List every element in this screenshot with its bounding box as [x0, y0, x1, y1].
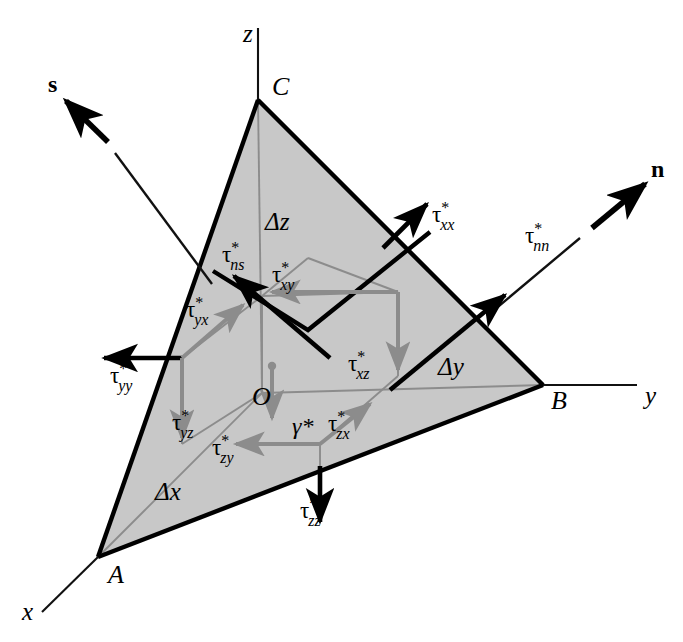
- vertex-label-o: O: [252, 382, 271, 411]
- vertex-label-c: C: [272, 72, 290, 101]
- label-delta-z: Δz: [264, 208, 290, 235]
- vertex-label-a: A: [106, 560, 124, 589]
- vertex-label-b: B: [551, 386, 567, 415]
- axis-label-z: z: [242, 20, 253, 47]
- label-vector-s: s: [48, 71, 57, 97]
- label-gamma: γ*: [292, 413, 313, 439]
- label-delta-x: Δx: [154, 478, 181, 505]
- stress-tetrahedron-figure: x y z A B C O Δx Δy Δz n s γ* τ*nn τ*ns …: [0, 0, 683, 642]
- axis-label-x: x: [21, 598, 33, 625]
- label-vector-n: n: [651, 156, 664, 182]
- axis-label-y: y: [642, 382, 657, 409]
- label-delta-y: Δy: [437, 353, 465, 380]
